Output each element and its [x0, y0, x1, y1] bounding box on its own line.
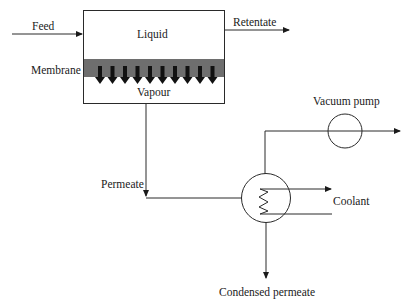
vapour-label: Vapour: [137, 87, 170, 99]
vacuum-pump-label: Vacuum pump: [313, 96, 380, 108]
feed-label: Feed: [32, 21, 54, 33]
condenser-coil: [259, 189, 268, 214]
liquid-label: Liquid: [137, 29, 168, 41]
coolant-label: Coolant: [333, 196, 369, 208]
retentate-label: Retentate: [233, 17, 276, 29]
vacuum-line: [265, 131, 400, 174]
permeate-label: Permeate: [101, 179, 144, 191]
membrane-band: [84, 59, 224, 77]
condenser: [242, 174, 291, 223]
condensed-permeate-label: Condensed permeate: [219, 287, 315, 299]
process-diagram: [0, 0, 409, 305]
membrane-label: Membrane: [31, 65, 81, 77]
